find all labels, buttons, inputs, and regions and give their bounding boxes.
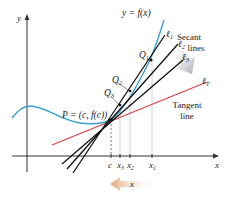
line-label-3: ℓ3 [182, 52, 189, 63]
y-axis-arrow-icon [25, 14, 30, 20]
secant-caption-2: lines [188, 43, 205, 53]
curve-label: y = f(x) [121, 8, 151, 19]
secant-caption: Secant [177, 32, 201, 42]
q2-label: Q2 [112, 75, 122, 86]
tick-label-x2: x2 [126, 160, 134, 171]
point-p-label: P = (c, f(c)) [61, 110, 107, 121]
secant-tangent-diagram: y x y = f(x) ℓ1 ℓ2 ℓ3 ℓT Secant lines Ta… [0, 0, 231, 197]
point-q1 [150, 59, 153, 62]
line-label-1: ℓ1 [166, 29, 173, 40]
tick-label-c: c [108, 160, 112, 170]
point-q3 [119, 104, 122, 107]
point-p [109, 118, 113, 122]
q3-label: Q3 [104, 88, 114, 99]
q1-label: Q1 [139, 50, 149, 61]
line-label-t: ℓT [202, 76, 210, 87]
tick-label-x3: x3 [116, 160, 124, 171]
point-q2 [129, 90, 132, 93]
secant-lines [62, 35, 183, 173]
tangent-caption: Tangent [173, 100, 202, 110]
x-axis-label: x [214, 160, 219, 170]
y-axis-label: y [16, 13, 21, 23]
arrow-x-label: x [129, 179, 134, 189]
tick-label-x1: x1 [148, 160, 156, 171]
tangent-caption-2: line [180, 111, 194, 121]
secant-line-2 [67, 44, 178, 169]
x-axis-arrow-icon [213, 154, 219, 159]
